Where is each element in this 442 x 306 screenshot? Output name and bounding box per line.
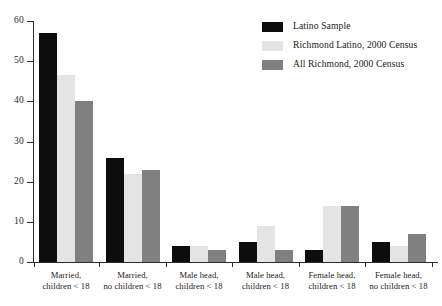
bar: [124, 174, 142, 262]
category-label-line1: Married,: [117, 270, 148, 280]
bar-group: [239, 21, 293, 262]
category-label-line1: Male head,: [179, 270, 218, 280]
y-axis-tick: [27, 142, 33, 143]
y-axis-tick: [27, 101, 33, 102]
legend-swatch: [262, 41, 283, 51]
y-axis-tick: [27, 21, 33, 22]
category-label-line2: no children < 18: [95, 281, 171, 292]
bar: [39, 33, 57, 262]
bar: [75, 101, 93, 262]
bar: [372, 242, 390, 262]
x-axis-tick: [34, 262, 35, 267]
category-label: Male head,children < 18: [161, 270, 237, 291]
y-axis-tick: [27, 222, 33, 223]
y-axis-tick-label: 20: [2, 177, 24, 187]
category-label: Married,no children < 18: [95, 270, 171, 291]
x-axis-tick: [299, 262, 300, 267]
bar: [57, 75, 75, 262]
bar-group: [106, 21, 160, 262]
legend-label: Richmond Latino, 2000 Census: [293, 39, 417, 51]
category-label-line2: no children < 18: [361, 281, 437, 292]
category-label-line2: children < 18: [228, 281, 304, 292]
bar: [305, 250, 323, 262]
y-axis-tick-label: 30: [2, 137, 24, 147]
bar-chart: 0102030405060 Married,children < 18Marri…: [0, 0, 442, 306]
y-axis-tick-label: 0: [2, 257, 24, 267]
category-label: Female head,children < 18: [294, 270, 370, 291]
bar: [142, 170, 160, 262]
bar: [190, 246, 208, 262]
x-axis-tick: [99, 262, 100, 267]
y-axis-tick-label: 10: [2, 217, 24, 227]
y-axis-tick: [27, 61, 33, 62]
x-axis-tick: [432, 262, 433, 267]
category-label-line1: Female head,: [308, 270, 355, 280]
y-axis-tick-label: 60: [2, 16, 24, 26]
bar: [239, 242, 257, 262]
bar: [257, 226, 275, 262]
bar: [106, 158, 124, 262]
bar-group: [172, 21, 226, 262]
bar: [408, 234, 426, 262]
category-label: Married,children < 18: [28, 270, 104, 291]
legend-label: All Richmond, 2000 Census: [293, 58, 404, 70]
x-axis-tick: [232, 262, 233, 267]
category-label: Male head,children < 18: [228, 270, 304, 291]
bar: [323, 206, 341, 262]
legend-label: Latino Sample: [293, 20, 351, 32]
category-label-line1: Married,: [51, 270, 82, 280]
bar: [208, 250, 226, 262]
bar-group: [39, 21, 93, 262]
legend-swatch: [262, 60, 283, 70]
y-axis-tick-label: 40: [2, 96, 24, 106]
y-axis-tick: [27, 182, 33, 183]
x-axis-tick: [166, 262, 167, 267]
y-axis-tick-label: 50: [2, 56, 24, 66]
bar: [341, 206, 359, 262]
x-axis-line: [33, 262, 438, 263]
category-label-line2: children < 18: [161, 281, 237, 292]
bar: [275, 250, 293, 262]
category-label-line2: children < 18: [294, 281, 370, 292]
category-label-line1: Female head,: [375, 270, 422, 280]
category-label: Female head,no children < 18: [361, 270, 437, 291]
bar: [172, 246, 190, 262]
bar: [390, 246, 408, 262]
category-label-line2: children < 18: [28, 281, 104, 292]
category-label-line1: Male head,: [246, 270, 285, 280]
x-axis-tick: [365, 262, 366, 267]
legend-swatch: [262, 22, 283, 32]
